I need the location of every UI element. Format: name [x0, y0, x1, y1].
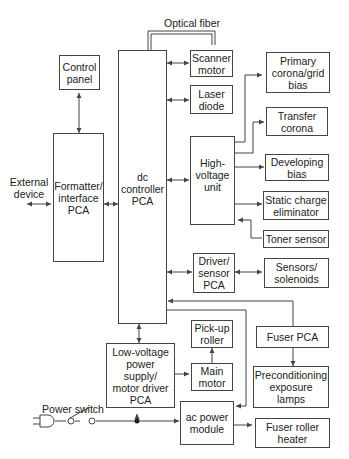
external-device-label: External device: [4, 176, 54, 200]
high-voltage-unit-block: High- voltage unit: [190, 136, 235, 225]
formatter-block: Formatter/ interface PCA: [53, 133, 104, 262]
sensors-solenoids-block: Sensors/ solenoids: [264, 258, 329, 288]
fuser-roller-heater-block: Fuser roller heater: [255, 418, 330, 448]
ac-power-module-block: ac power module: [180, 401, 234, 445]
preconditioning-lamps-block: Preconditioning exposure lamps: [253, 366, 329, 408]
primary-corona-block: Primary corona/grid bias: [266, 52, 330, 93]
toner-sensor-block: Toner sensor: [263, 230, 329, 248]
laser-diode-block: Laser diode: [190, 85, 233, 114]
pickup-roller-block: Pick-up roller: [191, 320, 233, 348]
control-panel-block: Control panel: [59, 55, 100, 90]
dc-controller-block: dc controller PCA: [118, 50, 167, 324]
developing-bias-block: Developing bias: [265, 154, 329, 181]
transfer-corona-block: Transfer corona: [266, 107, 328, 136]
fuser-pca-block: Fuser PCA: [256, 326, 329, 348]
main-motor-block: Main motor: [191, 363, 233, 391]
scanner-motor-block: Scanner motor: [190, 50, 233, 77]
power-switch-label: Power switch: [38, 403, 108, 415]
driver-sensor-block: Driver/ sensor PCA: [193, 253, 235, 293]
optical-fiber-label: Optical fiber: [152, 17, 232, 29]
low-voltage-power-supply-block: Low-voltage power supply/ motor driver P…: [106, 343, 175, 408]
static-charge-eliminator-block: Static charge eliminator: [263, 191, 329, 220]
